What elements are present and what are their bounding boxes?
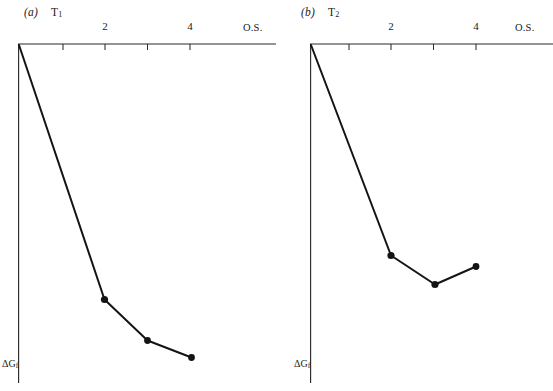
panel-b-plot: [277, 0, 553, 391]
frost-diagram-figure: (a)T1 2 4 O.S. ΔGf (b)T2: [0, 0, 553, 391]
panel-a-tick-label-4: 4: [187, 20, 193, 32]
panel-a-y-axis-subscript: f: [16, 361, 19, 370]
panel-b-data-point-os2: [387, 252, 394, 259]
panel-a-y-axis-title: ΔGf: [2, 358, 18, 370]
panel-b-x-axis-title: O.S.: [515, 22, 534, 33]
panel-b-y-axis-title: ΔGf: [294, 358, 310, 370]
panel-a-data-point-os3: [144, 337, 151, 344]
panel-b-data-point-os3: [431, 281, 438, 288]
panel-b-tick-label-4: 4: [473, 20, 479, 32]
panel-a-data-line: [19, 45, 192, 358]
panel-b-data-line: [311, 45, 476, 285]
panel-a-data-point-os2: [101, 296, 108, 303]
panel-b-y-axis-symbol: ΔG: [294, 358, 308, 369]
panel-a-x-axis-title: O.S.: [243, 22, 262, 33]
panel-a-data-point-os4: [188, 354, 195, 361]
panel-a-plot: [0, 0, 276, 391]
panel-a-tick-label-2: 2: [102, 20, 108, 32]
panel-b: (b)T2 2 4 O.S. ΔGf: [277, 0, 553, 391]
panel-b-y-axis-subscript: f: [308, 361, 311, 370]
panel-b-data-point-os4: [473, 263, 480, 270]
panel-a-y-axis-symbol: ΔG: [2, 358, 16, 369]
panel-a: (a)T1 2 4 O.S. ΔGf: [0, 0, 276, 391]
panel-b-tick-label-2: 2: [388, 20, 394, 32]
